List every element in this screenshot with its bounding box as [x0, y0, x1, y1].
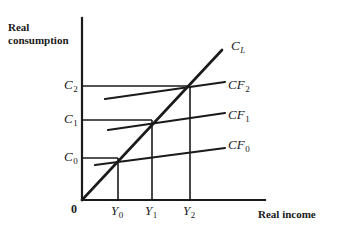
y-tick-c0-sub: 0: [73, 156, 78, 166]
curve-label-cf0-sub: 0: [245, 144, 250, 154]
y-axis-title-line1: Real: [8, 22, 69, 33]
x-tick-y2-sub: 2: [191, 210, 196, 220]
curve-cf1: [108, 113, 225, 130]
x-tick-y0-sub: 0: [119, 210, 124, 220]
consumption-function-diagram: Real consumption Real income 0 C2 C1 C0 …: [0, 0, 339, 236]
y-tick-c0-base: C: [64, 149, 73, 164]
curve-label-cf2: CF2: [228, 78, 249, 91]
curve-label-cf1-sub: 1: [245, 114, 250, 124]
curve-cf2: [105, 82, 225, 99]
y-tick-c2-sub: 2: [73, 84, 78, 94]
x-axis-title: Real income: [258, 209, 316, 220]
curves-group: [82, 50, 225, 200]
curve-label-cl-sub: L: [240, 45, 245, 55]
x-tick-y0-base: Y: [111, 203, 118, 218]
x-tick-label-y0: Y0: [111, 204, 123, 217]
y-tick-label-c0: C0: [64, 150, 77, 163]
curve-label-cf0: CF0: [228, 138, 249, 151]
curve-label-cf1: CF1: [228, 108, 249, 121]
curve-label-cf2-sub: 2: [245, 84, 250, 94]
origin-label: 0: [71, 203, 77, 215]
x-tick-y1-sub: 1: [153, 210, 158, 220]
x-tick-y1-base: Y: [145, 203, 152, 218]
y-tick-label-c2: C2: [64, 78, 77, 91]
y-tick-label-c1: C1: [64, 112, 77, 125]
curve-label-cl: CL: [231, 39, 245, 52]
curve-label-cf0-base: CF: [228, 137, 245, 152]
curve-cf0: [95, 148, 225, 165]
x-tick-label-y1: Y1: [145, 204, 157, 217]
curve-label-cl-base: C: [231, 38, 240, 53]
y-tick-c1-sub: 1: [73, 118, 78, 128]
y-axis-title-line2: consumption: [8, 35, 69, 46]
x-tick-label-y2: Y2: [183, 204, 195, 217]
curve-label-cf2-base: CF: [228, 77, 245, 92]
y-tick-c2-base: C: [64, 77, 73, 92]
curve-label-cf1-base: CF: [228, 107, 245, 122]
x-tick-y2-base: Y: [183, 203, 190, 218]
y-tick-c1-base: C: [64, 111, 73, 126]
y-axis-title: Real consumption: [8, 22, 69, 46]
